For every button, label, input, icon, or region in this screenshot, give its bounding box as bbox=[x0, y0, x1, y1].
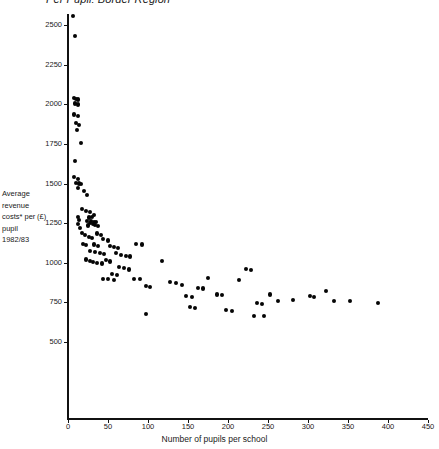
data-point bbox=[134, 242, 138, 246]
data-point bbox=[230, 309, 234, 313]
data-point bbox=[190, 295, 194, 299]
x-axis-tick-label: 150 bbox=[168, 423, 208, 431]
data-point bbox=[88, 249, 92, 253]
y-axis-tick-label: 1750 bbox=[2, 140, 62, 148]
data-point bbox=[201, 286, 205, 290]
data-point bbox=[206, 276, 210, 280]
y-axis-tick-mark bbox=[64, 223, 68, 224]
y-axis-tick-label: 750 bbox=[2, 298, 62, 306]
data-point bbox=[260, 302, 264, 306]
data-point bbox=[291, 298, 295, 302]
data-point bbox=[95, 261, 99, 265]
data-point bbox=[101, 277, 105, 281]
data-point bbox=[84, 209, 88, 213]
data-point bbox=[144, 312, 148, 316]
x-axis-tick-label: 50 bbox=[88, 423, 128, 431]
data-point bbox=[114, 251, 118, 255]
data-point bbox=[73, 159, 77, 163]
data-point bbox=[332, 299, 336, 303]
data-point bbox=[119, 253, 123, 257]
data-point bbox=[128, 254, 132, 258]
data-point bbox=[168, 280, 172, 284]
data-point bbox=[144, 284, 148, 288]
data-point bbox=[184, 294, 188, 298]
data-point bbox=[73, 34, 77, 38]
x-axis-tick-label: 400 bbox=[368, 423, 408, 431]
data-point bbox=[252, 314, 256, 318]
data-point bbox=[308, 294, 312, 298]
data-point bbox=[75, 128, 79, 132]
y-axis-tick-label: 1000 bbox=[2, 259, 62, 267]
data-point bbox=[127, 267, 131, 271]
y-axis-tick-mark bbox=[64, 263, 68, 264]
data-point bbox=[237, 278, 241, 282]
data-point bbox=[160, 259, 164, 263]
page-title: Per Pupil: Border Region bbox=[46, 0, 170, 5]
data-point bbox=[116, 246, 120, 250]
data-point bbox=[215, 292, 219, 296]
y-axis-tick-label: 2250 bbox=[2, 61, 62, 69]
data-point bbox=[90, 236, 94, 240]
y-axis-tick-label: 500 bbox=[2, 338, 62, 346]
y-axis-label: Average revenue costs* per pupil 1982/83 bbox=[2, 188, 36, 246]
data-point bbox=[115, 273, 119, 277]
x-axis-tick-label: 100 bbox=[128, 423, 168, 431]
data-point bbox=[106, 238, 110, 242]
y-axis-tick-mark bbox=[64, 342, 68, 343]
data-point bbox=[84, 243, 88, 247]
y-axis-tick-mark bbox=[64, 104, 68, 105]
data-point bbox=[148, 285, 152, 289]
data-point bbox=[220, 293, 224, 297]
x-axis-label: Number of pupils per school bbox=[0, 434, 429, 444]
data-point bbox=[76, 186, 80, 190]
data-point bbox=[76, 102, 80, 106]
y-axis-tick-mark bbox=[64, 184, 68, 185]
y-axis-tick-label: 2000 bbox=[2, 100, 62, 108]
data-point bbox=[71, 14, 75, 18]
data-point bbox=[86, 223, 90, 227]
data-point bbox=[224, 308, 228, 312]
data-point bbox=[276, 299, 280, 303]
data-point bbox=[100, 261, 104, 265]
x-axis-tick-label: 200 bbox=[208, 423, 248, 431]
x-axis-tick-label: 450 bbox=[408, 423, 439, 431]
data-point bbox=[312, 295, 316, 299]
data-point bbox=[108, 259, 112, 263]
data-point bbox=[101, 237, 105, 241]
data-point bbox=[348, 299, 352, 303]
data-point bbox=[138, 277, 142, 281]
data-point bbox=[110, 272, 114, 276]
data-point bbox=[122, 266, 126, 270]
data-point bbox=[77, 123, 81, 127]
data-point bbox=[112, 278, 116, 282]
data-point bbox=[196, 286, 200, 290]
data-point bbox=[82, 189, 86, 193]
x-axis-tick-label: 350 bbox=[328, 423, 368, 431]
data-point bbox=[117, 265, 121, 269]
data-point bbox=[140, 242, 144, 246]
x-axis-tick-label: 300 bbox=[288, 423, 328, 431]
x-axis-tick-label: 0 bbox=[48, 423, 88, 431]
y-axis-tick-mark bbox=[64, 25, 68, 26]
y-axis-tick-mark bbox=[64, 65, 68, 66]
data-point bbox=[174, 281, 178, 285]
data-point bbox=[132, 277, 136, 281]
y-axis-tick-mark bbox=[64, 144, 68, 145]
y-axis-tick-label: 2500 bbox=[2, 21, 62, 29]
data-point bbox=[79, 141, 83, 145]
data-point bbox=[193, 306, 197, 310]
data-point bbox=[188, 305, 192, 309]
data-point bbox=[96, 224, 100, 228]
data-point bbox=[102, 252, 106, 256]
x-axis-tick-label: 250 bbox=[248, 423, 288, 431]
data-point bbox=[249, 268, 253, 272]
data-point bbox=[244, 267, 248, 271]
plot-area bbox=[68, 14, 428, 419]
data-point bbox=[106, 277, 110, 281]
data-point bbox=[104, 258, 108, 262]
data-point bbox=[255, 301, 259, 305]
data-point bbox=[76, 114, 80, 118]
data-point bbox=[96, 244, 100, 248]
data-point bbox=[180, 283, 184, 287]
